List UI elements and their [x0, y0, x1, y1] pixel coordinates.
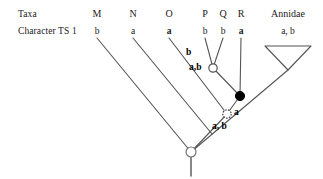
node-marker-root: [186, 147, 196, 157]
character-state-P: b: [203, 27, 208, 37]
taxon-label-O: O: [165, 9, 172, 19]
character-state-M: b: [95, 27, 100, 37]
node-marker-ingroup: [223, 110, 231, 118]
character-state-Q: b: [221, 27, 226, 37]
character-state-O: a: [167, 27, 172, 37]
taxon-label-P: P: [202, 9, 208, 19]
node-label-ingroup: a: [234, 108, 239, 118]
taxon-label-R: R: [238, 9, 245, 19]
character-state-R: a: [239, 27, 244, 37]
branch-O: [169, 38, 227, 114]
taxon-label-M: M: [93, 9, 102, 19]
branch-M: [97, 38, 191, 152]
node-marker-pq: [209, 64, 217, 72]
node-label-root: a, b: [212, 122, 227, 132]
row-label-taxa: Taxa: [18, 10, 37, 20]
node-label-pq: a,b: [189, 63, 201, 73]
taxon-label-Annidae: Annidae: [271, 9, 305, 19]
character-state-N: a: [131, 27, 135, 37]
branch-N: [133, 38, 212, 134]
branch-ingroup-stem: [191, 114, 227, 152]
row-label-character: Character TS 1: [18, 27, 77, 37]
branch-PQ-internal: [213, 68, 240, 96]
taxon-label-N: N: [129, 9, 136, 19]
node-marker-pqr-filled: [235, 91, 244, 100]
taxon-label-Q: Q: [219, 9, 226, 19]
phylogenetic-tree-figure: Taxa Character TS 1 M N O P Q R Annidae …: [0, 0, 323, 179]
branch-R: [240, 38, 241, 96]
character-state-Annidae: a, b: [281, 27, 295, 37]
branch-label-b: b: [186, 48, 191, 58]
annidae-clade-triangle: [265, 46, 311, 70]
branch-Annidae: [191, 70, 288, 152]
